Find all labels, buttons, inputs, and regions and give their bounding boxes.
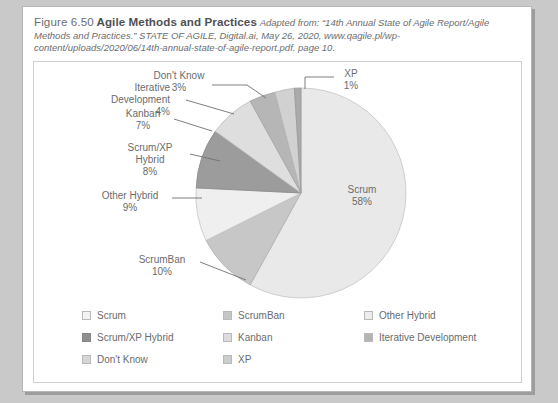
chart-frame: Don't Know 3% XP 1% Iterative Developmen…: [33, 61, 522, 383]
pie-label-kanban-name: Kanban: [126, 108, 160, 119]
leader-line-kanban: [174, 119, 212, 131]
legend-label-kanban: Kanban: [238, 332, 272, 343]
legend-label-scrum-xp-hybrid: Scrum/XP Hybrid: [97, 332, 174, 343]
legend-item-scrum[interactable]: Scrum: [82, 310, 223, 321]
pie-label-iterative-name-2: Development: [111, 94, 170, 105]
legend-label-other-hybrid: Other Hybrid: [379, 310, 436, 321]
legend-swatch-iterative-development: [364, 333, 373, 342]
legend-label-dont-know: Don't Know: [97, 354, 148, 365]
legend-label-xp: XP: [238, 354, 251, 365]
legend-swatch-scrum-xp-hybrid: [82, 333, 91, 342]
pie-label-scrumban: ScrumBan 10%: [126, 254, 198, 278]
legend-item-other-hybrid[interactable]: Other Hybrid: [364, 310, 512, 321]
pie-label-scrum-xp-name-2: Hybrid: [136, 154, 165, 165]
legend-swatch-dont-know: [82, 355, 91, 364]
legend-label-scrumban: ScrumBan: [238, 310, 285, 321]
pie-label-scrumban-pct: 10%: [152, 266, 172, 277]
legend-label-scrum: Scrum: [97, 310, 126, 321]
legend-item-iterative-development[interactable]: Iterative Development: [364, 332, 512, 343]
pie-label-scrum-pct: 58%: [352, 196, 372, 207]
pie-label-scrum-xp-name-1: Scrum/XP: [127, 142, 172, 153]
pie-label-xp-pct: 1%: [344, 80, 358, 91]
pie-label-other-hybrid-name: Other Hybrid: [102, 190, 159, 201]
legend-item-xp[interactable]: XP: [223, 354, 364, 365]
figure-caption: Figure 6.50 Agile Methods and Practices …: [23, 7, 531, 60]
pie-label-iterative-name-1: Iterative: [134, 82, 170, 93]
pie-label-scrum-name: Scrum: [348, 184, 377, 195]
pie-chart: Don't Know 3% XP 1% Iterative Developmen…: [34, 62, 523, 302]
legend-swatch-scrum: [82, 311, 91, 320]
legend-label-iterative-development: Iterative Development: [379, 332, 476, 343]
pie-label-xp: XP 1%: [336, 68, 366, 92]
pie-label-kanban: Kanban 7%: [114, 108, 172, 132]
leader-line-xp: [305, 77, 334, 89]
pie-label-other-hybrid: Other Hybrid 9%: [90, 190, 170, 214]
legend-swatch-scrumban: [223, 311, 232, 320]
figure-number: Figure 6.50: [34, 15, 94, 28]
figure-title: Agile Methods and Practices: [96, 15, 257, 28]
pie-label-kanban-pct: 7%: [136, 120, 150, 131]
legend-swatch-other-hybrid: [364, 311, 373, 320]
pie-label-dont-know-name: Don't Know: [154, 70, 205, 81]
pie-label-dont-know-pct: 3%: [172, 82, 186, 93]
pie-label-scrumban-name: ScrumBan: [139, 254, 186, 265]
pie-label-xp-name: XP: [344, 68, 357, 79]
pie-label-scrum-xp-pct: 8%: [143, 166, 157, 177]
pie-label-scrum-xp-hybrid: Scrum/XP Hybrid 8%: [112, 142, 188, 177]
leader-line-iterative: [186, 100, 234, 114]
legend-item-scrum-xp-hybrid[interactable]: Scrum/XP Hybrid: [82, 332, 223, 343]
legend-item-dont-know[interactable]: Don't Know: [82, 354, 223, 365]
pie-label-scrum: Scrum 58%: [334, 184, 390, 208]
legend-item-scrumban[interactable]: ScrumBan: [223, 310, 364, 321]
legend-item-kanban[interactable]: Kanban: [223, 332, 364, 343]
figure-card: Figure 6.50 Agile Methods and Practices …: [22, 6, 532, 392]
legend-swatch-kanban: [223, 333, 232, 342]
pie-label-other-hybrid-pct: 9%: [123, 202, 137, 213]
chart-legend: Scrum ScrumBan Other Hybrid Scrum/XP Hyb…: [82, 310, 512, 365]
legend-swatch-xp: [223, 355, 232, 364]
leader-line-dont-know: [212, 85, 266, 98]
